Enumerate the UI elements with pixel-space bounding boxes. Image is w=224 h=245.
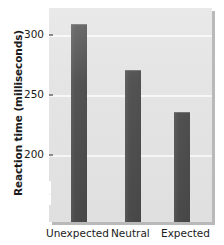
- y-tick-mark-300: [49, 34, 53, 36]
- y-tick-label-250: 250: [14, 89, 44, 100]
- y-tick-label-300: 300: [14, 29, 44, 40]
- axis-break-icon: [41, 181, 51, 205]
- x-tick-label-neutral: Neutral: [111, 227, 150, 239]
- bar-chart-figure: Reaction time (milliseconds) 300 250 200…: [0, 0, 224, 245]
- bar-neutral: [125, 70, 141, 222]
- y-axis-title: Reaction time (milliseconds): [10, 28, 26, 198]
- y-tick-mark-200: [49, 154, 53, 156]
- bar-unexpected: [71, 24, 87, 222]
- x-tick-label-unexpected: Unexpected: [46, 227, 109, 239]
- y-tick-mark-250: [49, 94, 53, 96]
- bar-expected: [174, 112, 190, 222]
- x-tick-label-expected: Expected: [161, 227, 210, 239]
- y-tick-label-200: 200: [14, 149, 44, 160]
- plot-area: [49, 8, 212, 222]
